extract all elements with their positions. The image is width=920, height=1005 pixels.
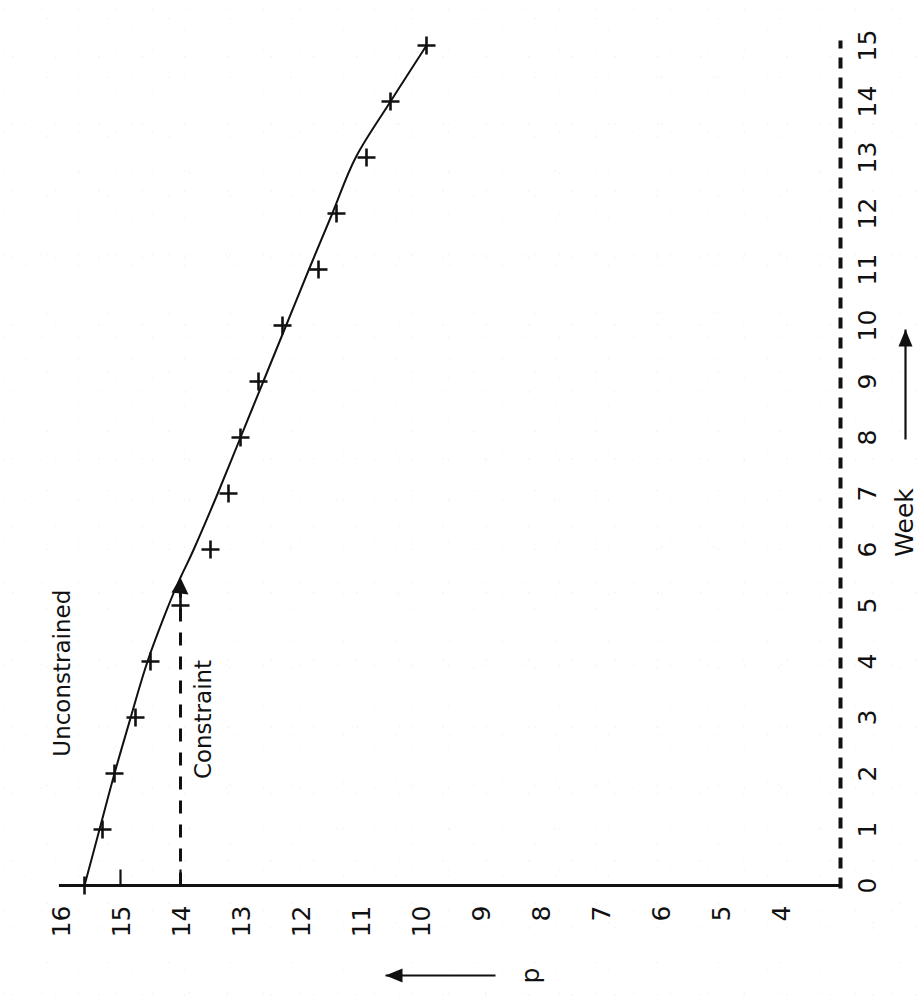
figure-canvas: 16151413121110987654 0123456789101112131… (0, 0, 920, 1005)
y-tick-label: 9 (466, 905, 495, 921)
x-tick-label: 8 (852, 429, 881, 445)
x-tick-label: 12 (852, 197, 881, 229)
x-tick-label: 7 (852, 485, 881, 501)
x-tick-label: 6 (852, 541, 881, 557)
y-tick-label: 14 (166, 905, 195, 937)
y-tick-label: 12 (286, 905, 315, 937)
x-tick-label: 2 (852, 765, 881, 781)
line-chart: 16151413121110987654 0123456789101112131… (0, 0, 920, 1005)
x-tick-label: 5 (852, 597, 881, 613)
y-tick-label: 13 (226, 905, 255, 937)
x-tick-label: 10 (852, 309, 881, 341)
x-tick-label: 4 (852, 653, 881, 669)
y-tick-label: 15 (106, 905, 135, 937)
x-tick-label: 11 (852, 253, 881, 285)
rotated-chart-wrapper: 16151413121110987654 0123456789101112131… (0, 0, 920, 1005)
x-tick-label: 1 (852, 821, 881, 837)
chart-background (0, 0, 920, 1005)
x-tick-label: 0 (852, 877, 881, 893)
y-tick-label: 4 (766, 905, 795, 921)
y-tick-label: 16 (46, 905, 75, 937)
y-tick-label: 10 (406, 905, 435, 937)
y-tick-label: 11 (346, 905, 375, 937)
y-tick-label: 8 (526, 905, 555, 921)
x-tick-label: 14 (852, 85, 881, 117)
x-tick-label: 15 (852, 29, 881, 61)
x-tick-label: 13 (852, 141, 881, 173)
x-axis-title: Week (889, 487, 918, 556)
annotation-constraint: Constraint (189, 659, 215, 778)
y-tick-label: 5 (706, 905, 735, 921)
y-tick-label: 7 (586, 905, 615, 921)
x-tick-label: 3 (852, 709, 881, 725)
y-axis-title: p (515, 967, 544, 983)
x-tick-label: 9 (852, 373, 881, 389)
y-tick-label: 6 (646, 905, 675, 921)
annotation-unconstrained: Unconstrained (48, 589, 74, 756)
